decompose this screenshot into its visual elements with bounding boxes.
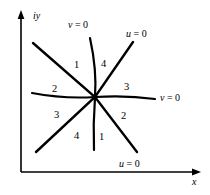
- sector-2-lower-right: 2: [121, 110, 126, 121]
- level-curves-group: [32, 38, 155, 152]
- sector-1-upper-left: 1: [74, 59, 79, 70]
- sector-3-right: 3: [124, 81, 129, 92]
- sector-1-bottom-right: 1: [99, 131, 104, 142]
- figure-canvas: iy x v = 0 u = 0 v = 0 u = 0 1 4 2 3 3 2…: [0, 0, 210, 195]
- x-axis-arrowhead: [192, 169, 201, 176]
- v-zero-right-var: v: [160, 92, 164, 103]
- x-axis-label: x: [192, 176, 196, 187]
- u-zero-top-rhs: = 0: [134, 28, 147, 39]
- v-zero-right-rhs: = 0: [167, 92, 180, 103]
- v-zero-top-rhs: = 0: [75, 19, 88, 30]
- v-zero-top-label: v = 0: [68, 19, 88, 30]
- u-zero-bottom-label: u = 0: [119, 158, 140, 169]
- sector-4-upper-right: 4: [101, 58, 106, 69]
- sector-2-left: 2: [52, 83, 57, 94]
- v-zero-top-var: v: [68, 19, 72, 30]
- v-zero-right-label: v = 0: [160, 92, 180, 103]
- y-axis-arrowhead: [18, 10, 25, 19]
- u-zero-bottom-rhs: = 0: [127, 158, 140, 169]
- sector-3-lower-left: 3: [54, 109, 59, 120]
- u-zero-top-var: u: [126, 28, 131, 39]
- y-axis-label: iy: [33, 10, 40, 21]
- sector-4-bottom-left: 4: [74, 130, 79, 141]
- u-zero-bottom-var: u: [119, 158, 124, 169]
- u-zero-top-label: u = 0: [126, 28, 147, 39]
